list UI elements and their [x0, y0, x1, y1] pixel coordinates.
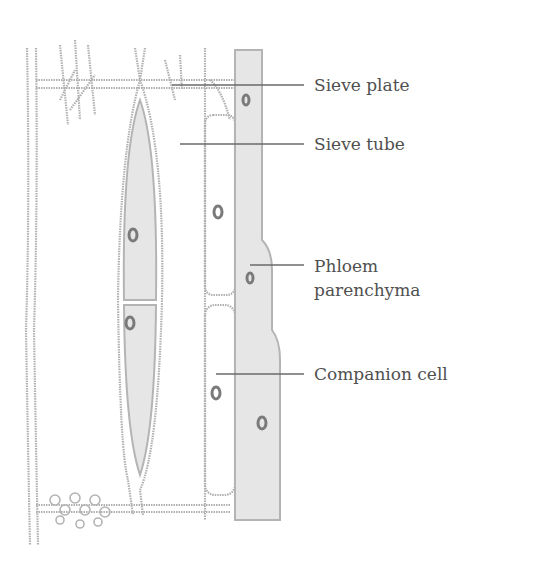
label-sieve-tube: Sieve tube: [314, 133, 405, 155]
label-parenchyma: parenchyma: [314, 279, 420, 301]
label-companion-cell: Companion cell: [314, 363, 448, 385]
phloem-diagram: Sieve plate Sieve tube Phloem parenchyma…: [0, 0, 534, 571]
label-sieve-plate: Sieve plate: [314, 74, 410, 96]
label-phloem: Phloem: [314, 255, 378, 277]
phloem-illustration: [0, 0, 534, 571]
